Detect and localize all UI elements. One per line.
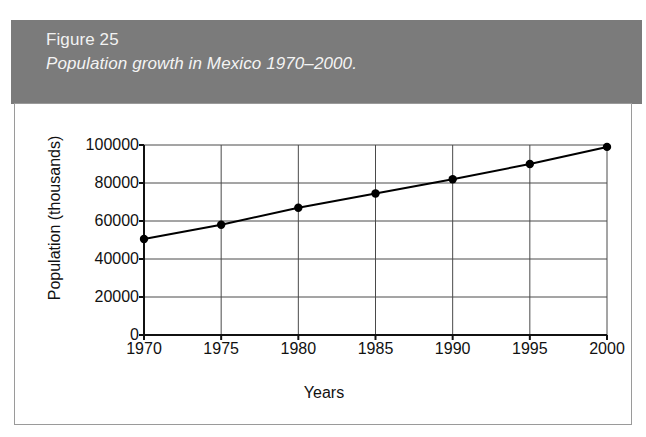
x-axis-tick-label: 1995 bbox=[512, 340, 548, 358]
figure-container: Figure 25 Population growth in Mexico 19… bbox=[0, 0, 646, 437]
x-axis-tick-label: 1970 bbox=[126, 340, 162, 358]
x-axis-tick-label: 1985 bbox=[358, 340, 394, 358]
x-axis-tick-label: 1990 bbox=[435, 340, 471, 358]
axis-tick-marks bbox=[139, 145, 607, 340]
y-axis-tick-labels: 020000400006000080000100000 bbox=[15, 145, 139, 335]
x-axis-tick-label: 2000 bbox=[589, 340, 625, 358]
plot-area bbox=[144, 145, 607, 335]
data-point-marker bbox=[526, 160, 534, 168]
y-axis-tick-label: 40000 bbox=[95, 250, 140, 268]
x-axis-tick-label: 1975 bbox=[203, 340, 239, 358]
y-axis-tick-label: 100000 bbox=[86, 136, 139, 154]
figure-number-label: Figure 25 bbox=[46, 29, 119, 50]
x-axis-tick-labels: 1970197519801985199019952000 bbox=[144, 340, 607, 362]
data-point-marker bbox=[217, 221, 225, 229]
figure-caption-text: Population growth in Mexico 1970–2000. bbox=[46, 53, 357, 75]
vertical-gridlines bbox=[221, 145, 607, 335]
y-axis-tick-label: 80000 bbox=[95, 174, 140, 192]
y-axis-tick-label: 20000 bbox=[95, 288, 140, 306]
data-point-marker bbox=[448, 175, 456, 183]
chart-plot-svg bbox=[134, 135, 617, 345]
chart-card: Population (thousands) 02000040000600008… bbox=[14, 103, 632, 425]
figure-caption-band: Figure 25 Population growth in Mexico 19… bbox=[11, 20, 642, 104]
x-axis-tick-label: 1980 bbox=[281, 340, 317, 358]
data-point-marker bbox=[294, 204, 302, 212]
x-axis-title: Years bbox=[15, 384, 633, 402]
data-point-marker bbox=[371, 189, 379, 197]
data-point-marker bbox=[140, 235, 148, 243]
data-point-marker bbox=[603, 143, 611, 151]
y-axis-tick-label: 60000 bbox=[95, 212, 140, 230]
